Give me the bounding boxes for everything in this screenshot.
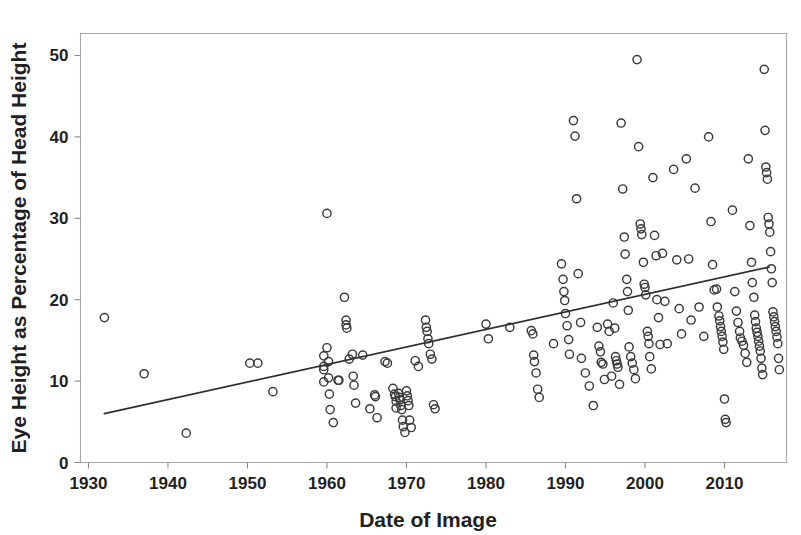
x-axis-ticks: [88, 463, 724, 469]
data-point: [140, 370, 148, 378]
data-point: [269, 388, 277, 396]
data-point: [682, 155, 690, 163]
data-point: [349, 372, 357, 380]
data-point: [638, 230, 646, 238]
data-point: [619, 185, 627, 193]
data-point: [576, 318, 584, 326]
data-point: [325, 390, 333, 398]
data-point: [746, 222, 754, 230]
data-point: [631, 375, 639, 383]
data-point: [734, 318, 742, 326]
y-tick-label-50: 50: [50, 46, 69, 65]
data-point: [534, 385, 542, 393]
data-point: [571, 132, 579, 140]
plot-border: [81, 34, 787, 463]
data-point: [761, 126, 769, 134]
y-tick-label-10: 10: [50, 372, 69, 391]
data-point: [675, 305, 683, 313]
data-point: [673, 256, 681, 264]
data-point: [595, 342, 603, 350]
data-point: [766, 228, 774, 236]
data-point: [532, 369, 540, 377]
scatter-plot-figure: 193019401950196019701980199020002010 010…: [0, 0, 801, 535]
y-tick-label-30: 30: [50, 209, 69, 228]
data-point: [484, 335, 492, 343]
data-point: [617, 119, 625, 127]
data-point: [647, 365, 655, 373]
data-point: [389, 384, 397, 392]
data-point: [254, 359, 262, 367]
data-point: [707, 217, 715, 225]
data-point: [743, 358, 751, 366]
y-axis-ticks: [75, 55, 81, 462]
data-point: [323, 344, 331, 352]
data-point: [633, 55, 641, 63]
data-point: [615, 380, 623, 388]
data-point: [639, 258, 647, 266]
data-point: [624, 306, 632, 314]
data-point: [654, 314, 662, 322]
data-point: [653, 296, 661, 304]
data-point: [700, 332, 708, 340]
x-tick-label-1940: 1940: [149, 474, 187, 493]
data-point: [713, 303, 721, 311]
data-point: [670, 165, 678, 173]
chart-canvas: 193019401950196019701980199020002010 010…: [0, 0, 801, 535]
data-point: [182, 429, 190, 437]
data-point: [405, 401, 413, 409]
plot-frame: [81, 34, 787, 463]
x-tick-label-1970: 1970: [388, 474, 426, 493]
data-point: [428, 355, 436, 363]
data-point: [695, 303, 703, 311]
data-point: [767, 265, 775, 273]
data-point: [589, 401, 597, 409]
data-point: [623, 287, 631, 295]
data-point: [366, 405, 374, 413]
x-axis-title: Date of Image: [359, 508, 497, 531]
x-tick-label-1960: 1960: [308, 474, 346, 493]
data-point: [563, 322, 571, 330]
data-point: [596, 348, 604, 356]
data-point: [557, 260, 565, 268]
data-point: [750, 293, 758, 301]
y-axis-title: Eye Height as Percentage of Head Height: [7, 43, 30, 454]
data-point: [691, 184, 699, 192]
scatter-points: [100, 55, 783, 437]
data-point: [741, 349, 749, 357]
data-point: [687, 316, 695, 324]
data-point: [661, 297, 669, 305]
data-point: [549, 340, 557, 348]
x-tick-label-1990: 1990: [547, 474, 585, 493]
data-point: [646, 353, 654, 361]
data-point: [731, 287, 739, 295]
data-point: [732, 307, 740, 315]
data-point: [350, 381, 358, 389]
y-tick-label-20: 20: [50, 291, 69, 310]
data-point: [720, 395, 728, 403]
data-point: [635, 143, 643, 151]
x-tick-label-2010: 2010: [706, 474, 744, 493]
data-point: [574, 270, 582, 278]
data-point: [685, 255, 693, 263]
data-point: [620, 233, 628, 241]
data-point: [535, 393, 543, 401]
data-point: [351, 399, 359, 407]
data-point: [704, 133, 712, 141]
data-point: [329, 419, 337, 427]
data-point: [744, 155, 752, 163]
x-tick-label-1930: 1930: [70, 474, 108, 493]
x-tick-label-1980: 1980: [467, 474, 505, 493]
data-point: [774, 354, 782, 362]
data-point: [559, 275, 567, 283]
x-tick-label-2000: 2000: [626, 474, 664, 493]
data-point: [728, 206, 736, 214]
x-tick-label-1950: 1950: [229, 474, 267, 493]
data-point: [426, 350, 434, 358]
data-point: [561, 296, 569, 304]
y-tick-label-0: 0: [59, 454, 68, 473]
data-point: [323, 209, 331, 217]
data-point: [607, 372, 615, 380]
data-point: [621, 250, 629, 258]
x-axis-tick-labels: 193019401950196019701980199020002010: [70, 474, 744, 493]
data-point: [569, 117, 577, 125]
